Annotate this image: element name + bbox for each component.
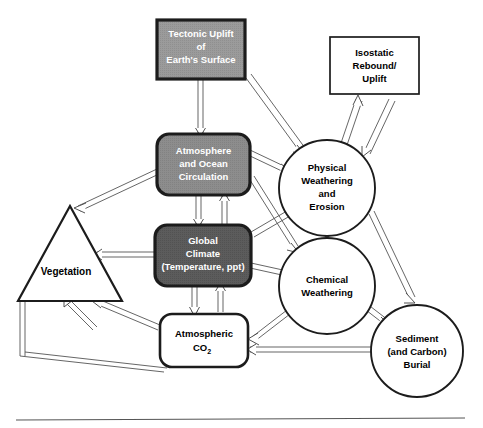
vegetation-triangle[interactable]: Vegetation [18, 206, 122, 301]
edge-climate-to-co2 [190, 286, 200, 316]
edge-tectonic-to-physical [246, 74, 305, 155]
physical-line-1: Physical [308, 162, 347, 173]
isostatic-line-2: Rebound/ [353, 60, 397, 71]
isostatic-line-3: Uplift [362, 73, 387, 84]
sediment-line-1: Sediment [396, 333, 440, 344]
atmospheric-co2-box[interactable]: Atmospheric CO2 [160, 314, 248, 367]
tectonic-line-1: Tectonic Uplift [168, 28, 234, 39]
atmosphere-line-2: and Ocean [179, 158, 228, 169]
edge-vegetation-to-chemical [20, 302, 167, 372]
chemical-line-2: Weathering [301, 287, 353, 298]
tectonic-line-3: Earth's Surface [166, 54, 235, 65]
edge-atmosphere-to-vegetation [74, 169, 159, 213]
isostatic-line-1: Isostatic [355, 47, 394, 58]
edge-atmosphere-to-climate [194, 196, 204, 227]
physical-line-4: Erosion [309, 201, 345, 212]
atmosphere-ocean-circulation-box[interactable]: Atmosphere and Ocean Circulation [157, 134, 250, 195]
chemical-line-1: Chemical [306, 274, 348, 285]
tectonic-line-2: of [197, 41, 207, 52]
vegetation-label: Vegetation [41, 266, 92, 277]
sediment-burial-circle[interactable]: Sediment (and Carbon) Burial [371, 305, 463, 397]
climate-line-3: (Temperature, ppt) [161, 261, 244, 272]
earth-system-feedback-diagram: Tectonic Uplift of Earth's Surface Isost… [0, 0, 483, 428]
diagram-canvas: Tectonic Uplift of Earth's Surface Isost… [0, 0, 483, 428]
atmosphere-line-1: Atmosphere [176, 145, 231, 156]
footer-divider [16, 418, 465, 420]
climate-line-1: Global [188, 235, 218, 246]
co2-line-1: Atmospheric [175, 328, 233, 339]
chemical-weathering-circle[interactable]: Chemical Weathering [279, 238, 375, 334]
edge-climate-to-atmosphere [220, 193, 230, 224]
co2-subscript: 2 [207, 348, 211, 355]
isostatic-rebound-box[interactable]: Isostatic Rebound/ Uplift [330, 37, 419, 94]
sediment-line-2: (and Carbon) [387, 346, 446, 357]
climate-line-2: Climate [186, 248, 220, 259]
edge-chemical-to-co2 [248, 310, 290, 345]
atmosphere-line-3: Circulation [179, 171, 229, 182]
edge-physical-to-sediment [369, 211, 415, 303]
global-climate-box[interactable]: Global Climate (Temperature, ppt) [155, 225, 251, 286]
edge-physical-to-isostatic [340, 95, 363, 148]
physical-line-3: and [319, 188, 336, 199]
edge-isostatic-to-physical [362, 99, 395, 157]
edge-tectonic-to-atmosphere [196, 80, 206, 136]
tectonic-uplift-box[interactable]: Tectonic Uplift of Earth's Surface [157, 20, 245, 79]
edge-sediment-to-co2 [247, 344, 372, 355]
edge-climate-to-vegetation [94, 249, 155, 260]
physical-weathering-circle[interactable]: Physical Weathering and Erosion [279, 140, 375, 236]
physical-line-2: Weathering [301, 175, 353, 186]
sediment-line-3: Burial [404, 359, 431, 370]
